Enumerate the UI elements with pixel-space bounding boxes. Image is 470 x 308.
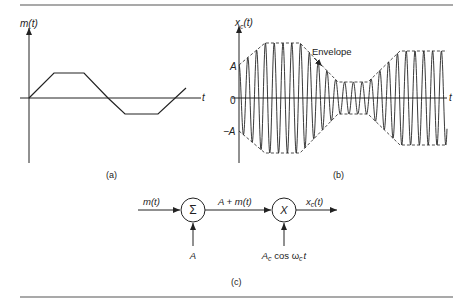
summer-input-label: A <box>189 250 196 261</box>
multiplier-symbol: X <box>279 204 288 216</box>
summer-symbol: Σ <box>189 203 196 217</box>
panel-a-y-label: m(t) <box>20 18 38 29</box>
panel-b-y-label: xc(t) <box>234 17 253 30</box>
panel-c-caption: (c) <box>231 277 242 287</box>
carrier-label: Ac cos ωct <box>261 250 307 262</box>
envelope-annotation: Envelope <box>312 46 352 57</box>
tick-label-neg-A: −A <box>223 126 236 137</box>
panel-b: xc(t) A 0 −A t Envelope (b) <box>223 17 453 180</box>
panel-a-caption: (a) <box>106 170 117 180</box>
panel-b-x-label: t <box>449 92 453 103</box>
panel-c: m(t) Σ A A + m(t) X Ac cos ωct xc(t) (c) <box>138 196 337 287</box>
intermediate-label: A + m(t) <box>217 196 252 207</box>
tick-label-zero: 0 <box>230 95 236 106</box>
panel-a: m(t) t (a) <box>20 18 206 180</box>
figure-svg: m(t) t (a) xc(t) A 0 −A t Envelope (b) m… <box>0 0 470 308</box>
input-label: m(t) <box>143 196 160 207</box>
panel-a-x-label: t <box>202 92 206 103</box>
output-label: xc(t) <box>305 196 323 208</box>
tick-label-A: A <box>229 61 237 72</box>
figure-canvas: m(t) t (a) xc(t) A 0 −A t Envelope (b) m… <box>0 0 470 308</box>
panel-b-caption: (b) <box>333 170 344 180</box>
message-signal-curve <box>29 73 186 114</box>
